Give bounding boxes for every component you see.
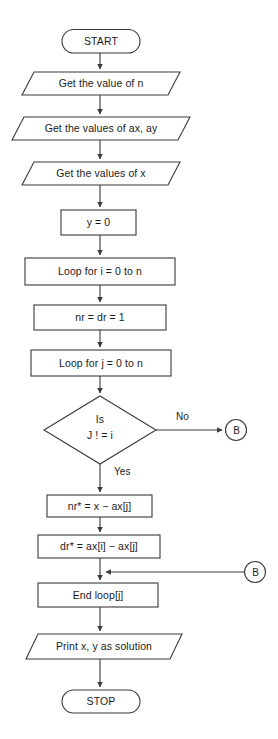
dr-update-shape <box>38 535 160 558</box>
edge-label-no: No <box>176 411 189 422</box>
start-shape <box>62 30 140 54</box>
nr-update-shape <box>47 495 152 517</box>
flowchart-canvas: START Get the value of n Get the values … <box>0 0 278 739</box>
connector-b-right-label: B <box>226 420 247 441</box>
connector-b-bottom-label: B <box>245 562 266 583</box>
loop-j-shape <box>31 350 171 376</box>
flowchart-shapes <box>0 0 278 739</box>
edge-label-yes: Yes <box>114 466 131 477</box>
end-loop-j-shape <box>38 583 158 607</box>
decision-shape <box>44 396 156 464</box>
get-x-shape <box>22 162 180 185</box>
loop-i-shape <box>25 258 175 285</box>
nr-dr-init-shape <box>34 305 166 330</box>
print-shape <box>26 634 182 659</box>
y-init-shape <box>61 210 136 235</box>
stop-shape <box>62 690 140 713</box>
get-n-shape <box>22 72 180 95</box>
get-ax-ay-shape <box>12 117 190 140</box>
